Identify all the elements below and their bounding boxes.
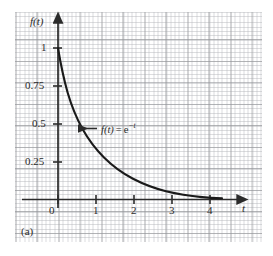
y-tick-label-05: 0.5: [32, 118, 46, 129]
figure-panel: f(t) t 1 0.75 0.5 0.25 0 1 2 3 4 f(t)=e−…: [0, 0, 273, 256]
x-tick-label-1: 1: [93, 205, 99, 216]
x-axis-label: t: [242, 203, 245, 214]
x-tick-label-2: 2: [131, 205, 137, 216]
curve-equation-label: f(t)=e−t: [101, 122, 136, 135]
y-tick-label-1: 1: [41, 42, 47, 53]
x-tick-label-0: 0: [49, 205, 55, 216]
equation-exponent: −t: [128, 121, 135, 130]
panel-label: (a): [21, 226, 33, 237]
x-tick-label-4: 4: [207, 205, 213, 216]
equation-equals-sign: =: [116, 124, 122, 135]
y-tick-label-075: 0.75: [25, 80, 44, 91]
exponential-decay-curve: [58, 48, 222, 198]
x-tick-label-3: 3: [169, 205, 175, 216]
y-tick-label-025: 0.25: [25, 156, 44, 167]
equation-function-part: f(t): [101, 124, 114, 135]
y-axis-label: f(t): [30, 16, 43, 27]
